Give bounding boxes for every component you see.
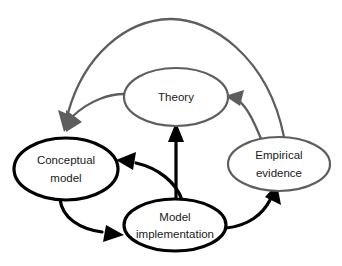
edge-theory-to-conceptual-model (66, 94, 124, 132)
edge-empirical-evidence-to-theory (225, 90, 262, 141)
node-empirical-evidence-label-line2: evidence (256, 167, 302, 179)
diagram-canvas: Theory Conceptual model Empirical eviden… (0, 0, 342, 266)
edge-model-implementation-to-conceptual-model (116, 152, 182, 200)
modelling-cycle-diagram: Theory Conceptual model Empirical eviden… (0, 0, 342, 266)
node-empirical-evidence-label-line1: Empirical (255, 149, 302, 161)
node-model-implementation-label-line2: implementation (136, 228, 214, 240)
edge-conceptual-model-to-model-implementation (60, 199, 124, 242)
node-theory[interactable]: Theory (124, 68, 228, 126)
node-empirical-evidence[interactable]: Empirical evidence (228, 137, 330, 191)
edge-model-implementation-to-theory (168, 122, 184, 205)
node-conceptual-model-shape (14, 138, 118, 200)
node-conceptual-model-label-line2: model (50, 172, 81, 184)
node-empirical-evidence-shape (228, 137, 330, 191)
node-model-implementation-shape (124, 199, 226, 251)
node-theory-label: Theory (158, 91, 194, 103)
node-conceptual-model[interactable]: Conceptual model (14, 138, 118, 200)
node-model-implementation[interactable]: Model implementation (124, 199, 226, 251)
node-conceptual-model-label-line1: Conceptual (37, 154, 95, 166)
node-model-implementation-label-line1: Model (159, 211, 190, 223)
